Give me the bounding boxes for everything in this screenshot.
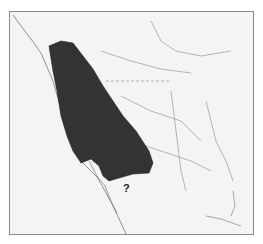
species-range	[49, 41, 153, 181]
map-frame	[9, 11, 254, 235]
uncertain-range-marker: ?	[123, 182, 130, 194]
map-canvas	[10, 12, 253, 234]
